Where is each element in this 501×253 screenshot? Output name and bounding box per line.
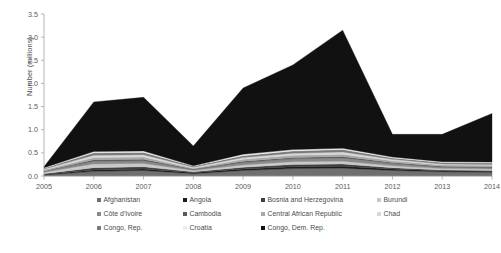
legend-label: Burundi (384, 193, 408, 207)
legend-item[interactable]: Congo, Dem. Rep. (261, 221, 377, 235)
x-tick-label: 2009 (235, 182, 251, 191)
chart-canvas: 0.00.51.01.52.02.53.03.52005200620072008… (0, 0, 501, 196)
legend-item[interactable]: Burundi (377, 193, 437, 207)
x-tick-label: 2008 (185, 182, 201, 191)
x-tick-label: 2010 (285, 182, 301, 191)
legend-label: Central African Republic (268, 207, 342, 221)
legend-swatch-icon (183, 198, 187, 202)
stacked-area-chart: Number (millions) 0.00.51.01.52.02.53.03… (0, 0, 501, 253)
legend-label: Croatia (190, 221, 212, 235)
x-tick-label: 2005 (36, 182, 52, 191)
y-tick-label: 1.0 (28, 125, 38, 134)
legend-label: Cambodia (190, 207, 222, 221)
legend-item[interactable]: Congo, Rep. (97, 221, 183, 235)
legend-label: Afghanistan (104, 193, 141, 207)
legend-item[interactable]: Central African Republic (261, 207, 377, 221)
legend-item[interactable]: Cambodia (183, 207, 261, 221)
legend-swatch-icon (261, 198, 265, 202)
legend-swatch-icon (183, 212, 187, 216)
legend-swatch-icon (183, 226, 187, 230)
legend-spacer (377, 221, 437, 235)
x-tick-label: 2014 (484, 182, 500, 191)
legend-swatch-icon (97, 226, 101, 230)
legend-swatch-icon (97, 198, 101, 202)
legend-item[interactable]: Bosnia and Herzegovina (261, 193, 377, 207)
legend-label: Côte d'Ivoire (104, 207, 143, 221)
y-axis-label: Number (millions) (25, 7, 34, 127)
x-tick-label: 2007 (136, 182, 152, 191)
plot-area: Number (millions) 0.00.51.01.52.02.53.03… (0, 0, 501, 196)
x-tick-label: 2011 (335, 182, 350, 191)
legend-label: Chad (384, 207, 401, 221)
legend-item[interactable]: Croatia (183, 221, 261, 235)
x-tick-label: 2013 (434, 182, 450, 191)
legend-label: Congo, Rep. (104, 221, 143, 235)
chart-legend: AfghanistanAngolaBosnia and HerzegovinaB… (0, 193, 501, 253)
legend-label: Congo, Dem. Rep. (268, 221, 325, 235)
legend-swatch-icon (377, 212, 381, 216)
legend-label: Bosnia and Herzegovina (268, 193, 344, 207)
y-tick-label: 0.5 (28, 148, 38, 157)
legend-item[interactable]: Chad (377, 207, 437, 221)
x-tick-label: 2012 (384, 182, 400, 191)
x-tick-label: 2006 (86, 182, 102, 191)
legend-item[interactable]: Afghanistan (97, 193, 183, 207)
legend-swatch-icon (97, 212, 101, 216)
legend-label: Angola (190, 193, 212, 207)
legend-item[interactable]: Angola (183, 193, 261, 207)
area-series-10 (44, 30, 492, 167)
y-tick-label: 0.0 (28, 172, 38, 181)
legend-swatch-icon (377, 198, 381, 202)
legend-swatch-icon (261, 226, 265, 230)
legend-swatch-icon (261, 212, 265, 216)
legend-item[interactable]: Côte d'Ivoire (97, 207, 183, 221)
